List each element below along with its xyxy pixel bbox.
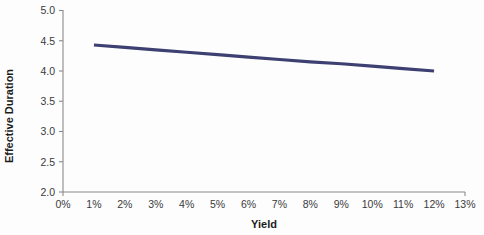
x-axis-tick-label: 1% [86, 198, 101, 210]
x-axis-tick-label: 5% [210, 198, 225, 210]
x-axis-tick-label: 8% [303, 198, 318, 210]
y-axis-tick-label: 3.0 [40, 125, 55, 137]
x-axis-tick-label: 12% [424, 198, 445, 210]
y-axis-title: Effective Duration [3, 69, 15, 163]
x-axis-tick-label: 13% [454, 198, 475, 210]
chart-container: 2.02.53.03.54.04.55.0 0%1%2%3%4%5%6%7%8%… [0, 0, 484, 235]
x-axis-tick-label: 4% [179, 198, 194, 210]
y-axis-tick-label: 4.5 [40, 35, 55, 47]
y-axis-tick-label: 2.0 [40, 186, 55, 198]
x-axis-tick-label: 2% [117, 198, 132, 210]
x-axis-tick-label: 0% [55, 198, 70, 210]
line-chart: 2.02.53.03.54.04.55.0 0%1%2%3%4%5%6%7%8%… [0, 0, 484, 235]
x-axis-tick-label: 10% [362, 198, 383, 210]
x-axis-title: Yield [251, 218, 277, 230]
y-axis-tick-label: 5.0 [40, 4, 55, 16]
x-axis-tick-label: 7% [272, 198, 287, 210]
x-axis-tick-label: 11% [393, 198, 413, 210]
x-axis-tick-label: 6% [241, 198, 256, 210]
y-axis-tick-label: 3.5 [40, 95, 55, 107]
x-axis-tick-label: 9% [334, 198, 349, 210]
y-axis-tick-label: 2.5 [40, 156, 55, 168]
x-axis-tick-label: 3% [148, 198, 163, 210]
y-axis-tick-label: 4.0 [40, 65, 55, 77]
